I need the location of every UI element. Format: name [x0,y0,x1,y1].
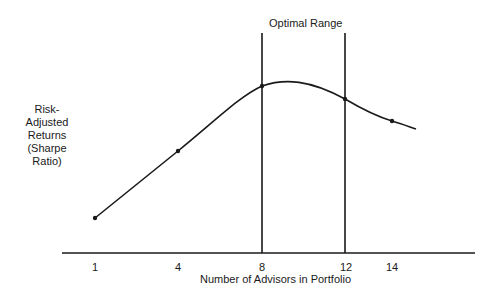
y-axis-label-line: (Sharpe [14,142,80,155]
y-axis-label-line: Returns [14,129,80,142]
x-tick-1: 1 [92,261,98,273]
x-tick-14: 14 [386,261,398,273]
y-axis-label-line: Ratio) [14,155,80,168]
optimal-range-label: Optimal Range [269,17,342,29]
data-point-8 [260,84,264,88]
data-point-14 [390,119,394,123]
y-axis-label: Risk- Adjusted Returns (Sharpe Ratio) [14,103,80,168]
returns-curve [95,82,416,218]
y-axis-label-line: Risk- [14,103,80,116]
x-tick-8: 8 [259,261,265,273]
y-axis-label-line: Adjusted [14,116,80,129]
x-axis-label: Number of Advisors in Portfolio [200,273,351,285]
x-tick-4: 4 [175,261,181,273]
x-tick-12: 12 [340,261,352,273]
data-point-4 [176,149,180,153]
data-point-12 [343,97,347,101]
data-point-1 [93,216,97,220]
